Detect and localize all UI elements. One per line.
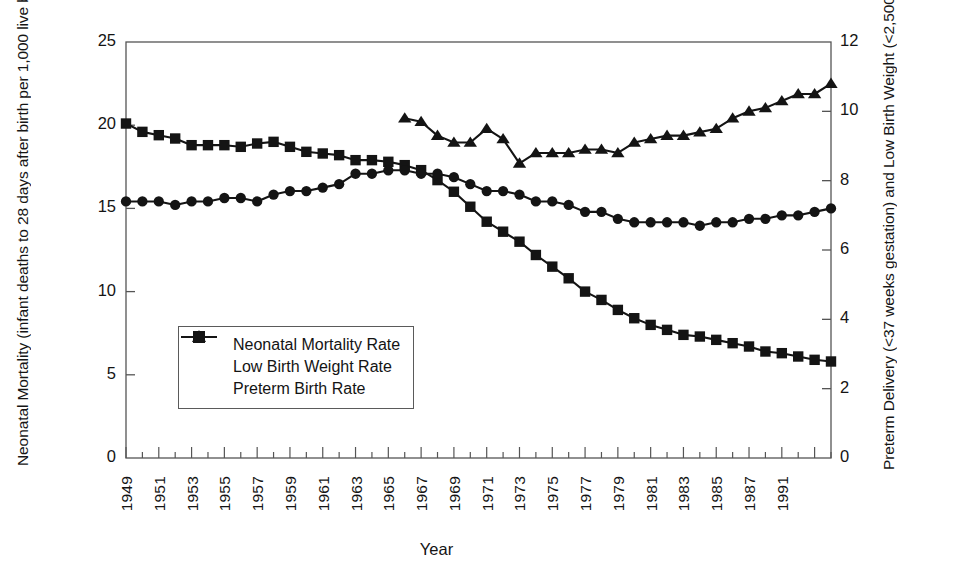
x-tick-label: 1975 <box>544 476 562 511</box>
y-tick-label-right: 0 <box>840 447 880 466</box>
data-point-square <box>268 137 278 147</box>
data-point-circle <box>547 196 557 206</box>
data-point-square <box>547 261 557 271</box>
data-point-circle <box>400 165 410 175</box>
legend-item: Low Birth Weight Rate <box>189 356 400 378</box>
data-point-square <box>301 147 311 157</box>
x-axis-title-text: Year <box>420 540 453 558</box>
series-line-circle <box>126 170 831 225</box>
chart-legend: Neonatal Mortality RateLow Birth Weight … <box>178 326 414 409</box>
data-point-circle <box>744 214 754 224</box>
data-point-circle <box>793 210 803 220</box>
x-tick-label: 1965 <box>380 476 398 511</box>
data-point-triangle <box>513 157 526 167</box>
data-point-circle <box>236 193 246 203</box>
data-point-circle <box>186 196 196 206</box>
x-tick-label: 1951 <box>151 476 169 511</box>
data-point-square <box>678 330 688 340</box>
data-point-square <box>252 138 262 148</box>
y-tick-label-right: 2 <box>840 378 880 397</box>
legend-label: Neonatal Mortality Rate <box>229 336 400 354</box>
legend-item: Neonatal Mortality Rate <box>189 334 400 356</box>
plot-area <box>0 0 953 582</box>
data-point-circle <box>137 196 147 206</box>
data-point-circle <box>334 179 344 189</box>
data-point-square <box>367 155 377 165</box>
data-point-square <box>727 338 737 348</box>
x-tick-label: 1963 <box>348 476 366 511</box>
data-point-circle <box>203 196 213 206</box>
data-point-square <box>809 355 819 365</box>
data-point-circle <box>596 207 606 217</box>
data-point-circle <box>285 186 295 196</box>
data-point-circle <box>826 203 836 213</box>
data-point-circle <box>727 217 737 227</box>
data-point-square <box>695 331 705 341</box>
data-point-circle <box>121 196 131 206</box>
data-point-square <box>596 295 606 305</box>
data-point-square <box>531 250 541 260</box>
legend-label: Preterm Birth Rate <box>229 380 365 398</box>
data-point-circle <box>777 210 787 220</box>
x-tick-label: 1991 <box>774 476 792 511</box>
data-point-square <box>121 118 131 128</box>
data-point-circle <box>465 179 475 189</box>
x-tick-label: 1979 <box>610 476 628 511</box>
data-point-circle <box>318 182 328 192</box>
data-point-square <box>744 341 754 351</box>
data-point-square <box>203 140 213 150</box>
data-point-circle <box>646 217 656 227</box>
y-tick-label-left: 10 <box>76 281 116 300</box>
data-point-circle <box>367 169 377 179</box>
data-point-circle <box>613 214 623 224</box>
y-tick-label-left: 15 <box>76 197 116 216</box>
data-point-circle <box>662 217 672 227</box>
data-point-square <box>793 351 803 361</box>
y-tick-label-right: 8 <box>840 170 880 189</box>
x-tick-label: 1977 <box>577 476 595 511</box>
data-point-square <box>154 130 164 140</box>
x-tick-label: 1969 <box>446 476 464 511</box>
x-tick-label: 1949 <box>118 476 136 511</box>
data-point-circle <box>629 217 639 227</box>
x-tick-label: 1985 <box>708 476 726 511</box>
data-point-circle <box>252 196 262 206</box>
data-point-circle <box>760 214 770 224</box>
data-point-circle <box>350 169 360 179</box>
data-point-circle <box>416 169 426 179</box>
data-point-square <box>318 148 328 158</box>
data-point-square <box>580 286 590 296</box>
data-point-square <box>481 217 491 227</box>
x-tick-label: 1983 <box>675 476 693 511</box>
data-point-square <box>498 226 508 236</box>
data-point-square <box>662 325 672 335</box>
x-tick-label: 1957 <box>249 476 267 511</box>
data-point-square <box>514 236 524 246</box>
data-point-square <box>645 320 655 330</box>
data-point-square <box>465 202 475 212</box>
y-tick-label-right: 4 <box>840 308 880 327</box>
x-tick-label: 1981 <box>643 476 661 511</box>
data-point-square <box>285 142 295 152</box>
data-point-circle <box>695 221 705 231</box>
y-tick-label-right: 10 <box>840 100 880 119</box>
data-point-circle <box>301 186 311 196</box>
x-axis-title: Year <box>0 540 953 559</box>
legend-marker-circle-icon <box>189 357 229 377</box>
data-point-circle <box>268 189 278 199</box>
x-tick-label: 1987 <box>741 476 759 511</box>
x-tick-label: 1959 <box>282 476 300 511</box>
x-tick-label: 1961 <box>315 476 333 511</box>
data-point-square <box>613 305 623 315</box>
data-point-square <box>334 150 344 160</box>
data-point-square <box>186 140 196 150</box>
data-point-circle <box>531 196 541 206</box>
data-point-circle <box>482 186 492 196</box>
data-point-circle <box>514 189 524 199</box>
data-point-circle <box>383 165 393 175</box>
data-point-triangle <box>398 112 411 122</box>
legend-label: Low Birth Weight Rate <box>229 358 392 376</box>
data-point-square <box>236 142 246 152</box>
data-point-triangle <box>480 123 493 133</box>
data-point-circle <box>711 217 721 227</box>
